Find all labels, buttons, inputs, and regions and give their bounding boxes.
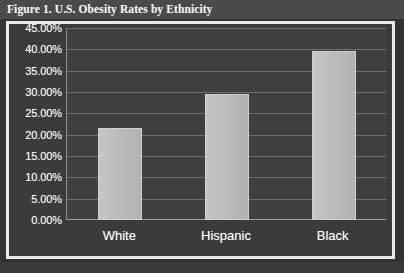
scan-artifact-strip	[0, 262, 404, 273]
y-axis-tick-label: 0.00%	[31, 214, 62, 226]
plot-area	[66, 28, 386, 220]
y-axis-tick-label: 30.00%	[25, 86, 62, 98]
x-axis-tick-label: White	[103, 228, 136, 243]
y-axis-tick-label: 45.00%	[25, 22, 62, 34]
bar-series	[67, 28, 386, 220]
y-axis-tick-label: 10.00%	[25, 171, 62, 183]
figure-title: Figure 1. U.S. Obesity Rates by Ethnicit…	[7, 3, 212, 15]
chart-frame: 0.00%5.00%10.00%15.00%20.00%25.00%30.00%…	[6, 21, 395, 259]
y-axis-tick-label: 25.00%	[25, 107, 62, 119]
x-axis: WhiteHispanicBlack	[66, 222, 386, 254]
figure-title-band: Figure 1. U.S. Obesity Rates by Ethnicit…	[0, 0, 404, 19]
y-axis-tick-label: 15.00%	[25, 150, 62, 162]
y-axis-tick-label: 35.00%	[25, 65, 62, 77]
bar	[98, 128, 142, 220]
chart-body: 0.00%5.00%10.00%15.00%20.00%25.00%30.00%…	[9, 24, 392, 256]
y-axis: 0.00%5.00%10.00%15.00%20.00%25.00%30.00%…	[9, 24, 66, 220]
bar	[312, 51, 356, 220]
y-axis-tick-label: 20.00%	[25, 129, 62, 141]
y-axis-tick-label: 40.00%	[25, 43, 62, 55]
figure-container: Figure 1. U.S. Obesity Rates by Ethnicit…	[0, 0, 404, 273]
bar	[205, 94, 249, 220]
y-axis-tick-label: 5.00%	[31, 193, 62, 205]
x-axis-tick-label: Hispanic	[201, 228, 251, 243]
x-axis-tick-label: Black	[317, 228, 349, 243]
